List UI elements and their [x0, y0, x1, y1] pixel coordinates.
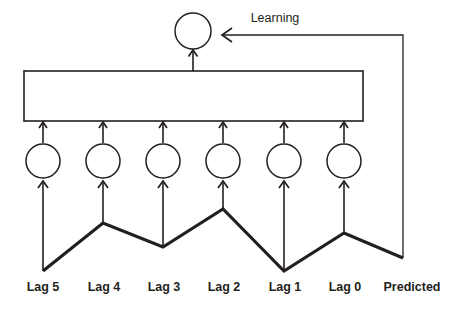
axis-label-lag-4: Lag 4 [88, 280, 121, 294]
hidden-layer-box[interactable] [24, 71, 363, 121]
axis-label-lag-3: Lag 3 [148, 280, 181, 294]
input-neuron-lag-5[interactable] [26, 144, 60, 178]
axis-label-lag-2: Lag 2 [208, 280, 241, 294]
input-neuron-row [26, 144, 361, 178]
axis-label-lag-1: Lag 1 [269, 280, 302, 294]
axis-label-predicted: Predicted [384, 280, 441, 294]
diagram-canvas: Learning Lag 5Lag 4Lag 3Lag 2Lag 1Lag 0P… [0, 0, 452, 311]
time-series-line [43, 209, 403, 271]
input-neuron-lag-4[interactable] [86, 144, 120, 178]
input-neuron-lag-1[interactable] [267, 144, 301, 178]
axis-label-lag-0: Lag 0 [329, 280, 362, 294]
axis-label-row: Lag 5Lag 4Lag 3Lag 2Lag 1Lag 0Predicted [27, 280, 441, 294]
network-diagram: Learning Lag 5Lag 4Lag 3Lag 2Lag 1Lag 0P… [0, 0, 452, 311]
learning-feedback-path [222, 28, 403, 258]
input-to-layer-arrows [39, 122, 348, 143]
input-neuron-lag-2[interactable] [206, 144, 240, 178]
learning-label: Learning [251, 11, 300, 25]
box-to-output-arrow [189, 50, 198, 71]
input-neuron-lag-3[interactable] [146, 144, 180, 178]
axis-label-lag-5: Lag 5 [27, 280, 60, 294]
output-neuron[interactable] [175, 13, 211, 49]
input-neuron-lag-0[interactable] [327, 144, 361, 178]
